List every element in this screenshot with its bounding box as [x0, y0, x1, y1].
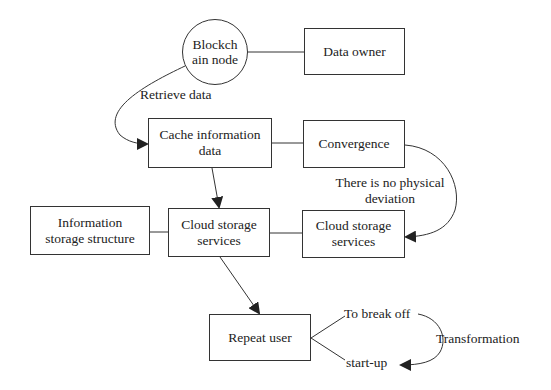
cloud-mid-line1: Cloud storage: [181, 217, 256, 233]
data-owner-label: Data owner: [323, 44, 386, 60]
no-physical-deviation-label: There is no physical deviation: [329, 175, 451, 207]
blockchain-node-line1: Blockch: [193, 37, 238, 52]
edge-cloudmid-repeatuser: [220, 257, 259, 313]
transformation-label: Transformation: [436, 331, 520, 347]
cloud-right-line1: Cloud storage: [316, 218, 391, 234]
cloud-storage-services-middle-box: Cloud storage services: [168, 208, 270, 257]
no-deviation-line2: deviation: [329, 191, 451, 207]
start-up-label: start-up: [346, 355, 387, 371]
info-storage-line2: storage structure: [45, 231, 135, 247]
edge-repeat-startup: [311, 338, 345, 360]
info-storage-line1: Information: [58, 215, 122, 231]
repeat-user-label: Repeat user: [228, 330, 291, 346]
cloud-right-line2: services: [332, 234, 375, 250]
cache-info-line2: data: [199, 143, 222, 159]
to-break-off-label: To break off: [344, 306, 410, 322]
data-owner-box: Data owner: [304, 28, 405, 75]
edge-repeat-breakoff: [311, 316, 345, 338]
cache-information-data-box: Cache information data: [148, 118, 272, 168]
edge-cache-cloudmid: [212, 168, 219, 207]
convergence-box: Convergence: [303, 120, 405, 168]
no-deviation-line1: There is no physical: [329, 175, 451, 191]
information-storage-structure-box: Information storage structure: [30, 206, 150, 255]
convergence-label: Convergence: [319, 136, 390, 152]
blockchain-node: Blockch ain node: [182, 19, 248, 85]
blockchain-node-line2: ain node: [192, 52, 238, 67]
retrieve-data-label: Retrieve data: [140, 87, 212, 103]
cloud-storage-services-right-box: Cloud storage services: [302, 210, 405, 258]
repeat-user-box: Repeat user: [209, 314, 311, 361]
cloud-mid-line2: services: [197, 233, 240, 249]
cache-info-line1: Cache information: [160, 127, 261, 143]
